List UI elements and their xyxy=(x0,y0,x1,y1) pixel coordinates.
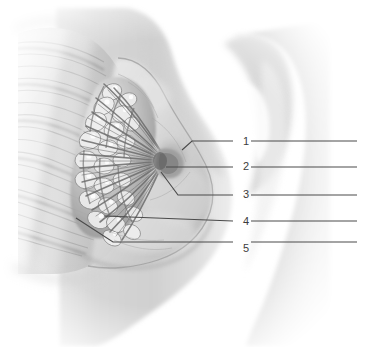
label-number-2: 2 xyxy=(240,161,252,172)
label-number-1: 1 xyxy=(240,136,252,147)
label-number-4: 4 xyxy=(240,216,252,227)
leader-line-1 xyxy=(182,141,233,150)
leader-line-5 xyxy=(76,218,233,242)
leader-lines-layer xyxy=(0,0,371,347)
label-number-3: 3 xyxy=(240,189,252,200)
leader-line-3 xyxy=(161,172,233,195)
label-number-5: 5 xyxy=(240,243,252,254)
breast-anatomy-figure: 12345 xyxy=(0,0,371,347)
leader-line-4 xyxy=(104,216,233,221)
